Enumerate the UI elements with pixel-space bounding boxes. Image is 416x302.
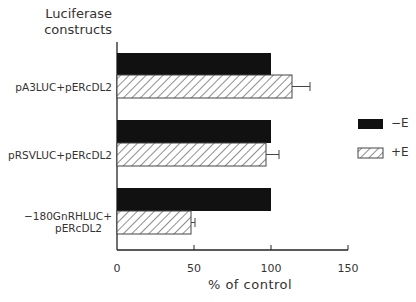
x-tick-150: 150 <box>328 262 368 275</box>
legend-label-plusE: +E <box>391 145 409 159</box>
legend-swatch-plusE <box>358 148 383 158</box>
chart-plot <box>0 0 416 302</box>
legend-swatch-minusE <box>358 119 383 129</box>
x-tick-50: 50 <box>174 262 214 275</box>
bar-plusE-3 <box>117 211 191 234</box>
legend-label-minusE: −E <box>391 116 409 130</box>
bar-minusE-2 <box>117 120 271 143</box>
bar-minusE-1 <box>117 53 271 75</box>
x-axis-title: % of control <box>170 277 330 292</box>
x-tick-100: 100 <box>251 262 291 275</box>
bar-minusE-3 <box>117 188 271 211</box>
bar-plusE-2 <box>117 143 266 166</box>
bar-plusE-1 <box>117 75 292 98</box>
x-tick-0: 0 <box>97 262 137 275</box>
